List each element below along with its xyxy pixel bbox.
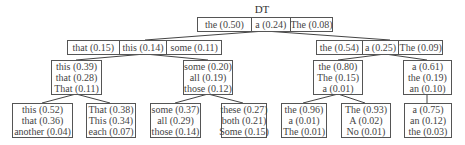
root-label: DT bbox=[242, 3, 282, 15]
node-line: that (0.36) bbox=[22, 115, 64, 126]
node-line: all (0.29) bbox=[157, 115, 194, 126]
l1-left-cell-1: that (0.15) bbox=[68, 41, 119, 54]
node-line: This (0.34) bbox=[89, 115, 133, 126]
node-line: No (0.01) bbox=[347, 126, 386, 137]
node-line: all (0.19) bbox=[190, 72, 227, 83]
level3-node-6: The (0.93) A (0.02) No (0.01) bbox=[341, 103, 391, 138]
level2-node-4: a (0.61) the (0.19) an (0.10) bbox=[403, 60, 452, 95]
node-line: this (0.52) bbox=[22, 104, 63, 115]
level1-right-node: the (0.54) a (0.25) The (0.09) bbox=[316, 40, 443, 55]
level1-left-node: that (0.15) this (0.14) some (0.11) bbox=[67, 40, 222, 55]
node-line: those (0.14) bbox=[152, 126, 200, 137]
root-cell-2: a (0.24) bbox=[251, 18, 290, 31]
level3-node-7: a (0.75) an (0.12) the (0.03) bbox=[404, 103, 452, 138]
level2-node-1: this (0.39) that (0.28) That (0.11) bbox=[51, 60, 102, 95]
node-line: A (0.02) bbox=[349, 115, 382, 126]
node-line: the (0.19) bbox=[408, 72, 447, 83]
l1-right-cell-2: a (0.25) bbox=[362, 41, 399, 54]
node-line: Some (0.15) bbox=[219, 126, 268, 137]
l1-left-cell-2: this (0.14) bbox=[119, 41, 167, 54]
level3-node-2: That (0.38) This (0.34) each (0.07) bbox=[86, 103, 136, 138]
level3-node-4: these (0.27) both (0.21) Some (0.15) bbox=[221, 103, 267, 138]
node-line: the (0.03) bbox=[409, 126, 448, 137]
node-line: both (0.21) bbox=[222, 115, 266, 126]
node-line: each (0.07) bbox=[89, 126, 134, 137]
level2-node-2: some (0.20) all (0.19) those (0.12) bbox=[183, 60, 233, 95]
level3-node-3: some (0.37) all (0.29) those (0.14) bbox=[150, 103, 201, 138]
node-line: some (0.37) bbox=[152, 104, 200, 115]
node-line: another (0.04) bbox=[14, 126, 71, 137]
node-line: the (0.96) bbox=[285, 104, 324, 115]
node-line: an (0.10) bbox=[409, 83, 445, 94]
node-line: a (0.01) bbox=[322, 83, 353, 94]
node-line: a (0.75) bbox=[412, 104, 443, 115]
root-node: the (0.50) a (0.24) The (0.08) bbox=[197, 17, 333, 32]
node-line: That (0.38) bbox=[89, 104, 134, 115]
node-line: this (0.39) bbox=[56, 61, 97, 72]
node-line: The (0.93) bbox=[345, 104, 387, 115]
node-line: The (0.01) bbox=[283, 126, 325, 137]
l1-right-cell-1: the (0.54) bbox=[317, 41, 362, 54]
node-line: those (0.12) bbox=[184, 83, 232, 94]
node-line: an (0.12) bbox=[410, 115, 446, 126]
node-line: a (0.01) bbox=[288, 115, 319, 126]
node-line: that (0.28) bbox=[56, 72, 98, 83]
root-cell-3: The (0.08) bbox=[290, 18, 332, 31]
node-line: these (0.27) bbox=[220, 104, 267, 115]
l1-right-cell-3: The (0.09) bbox=[398, 41, 442, 54]
level3-node-5: the (0.96) a (0.01) The (0.01) bbox=[281, 103, 327, 138]
root-cell-1: the (0.50) bbox=[198, 18, 251, 31]
node-line: the (0.80) bbox=[319, 61, 358, 72]
node-line: some (0.20) bbox=[184, 61, 232, 72]
node-line: a (0.61) bbox=[412, 61, 443, 72]
l1-left-cell-3: some (0.11) bbox=[166, 41, 221, 54]
node-line: That (0.11) bbox=[54, 83, 99, 94]
node-line: The (0.15) bbox=[317, 72, 359, 83]
level2-node-3: the (0.80) The (0.15) a (0.01) bbox=[313, 60, 363, 95]
level3-node-1: this (0.52) that (0.36) another (0.04) bbox=[12, 103, 73, 138]
